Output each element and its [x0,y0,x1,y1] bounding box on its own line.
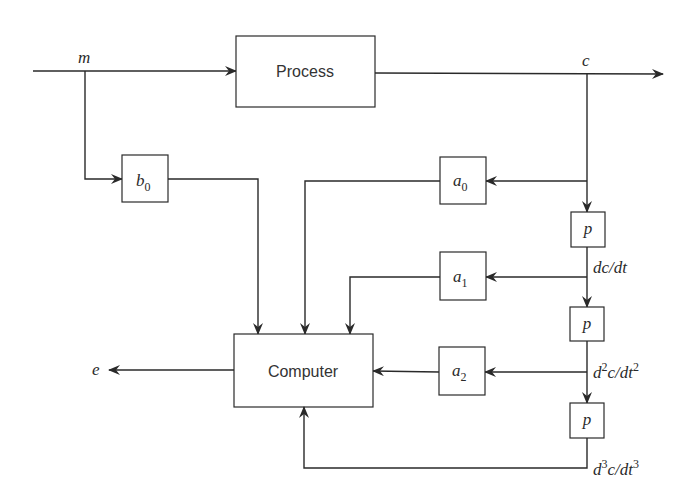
a1-block: a1 [440,252,486,300]
p2-block: p [570,307,604,341]
output-c-line [375,73,663,74]
svg-text:p: p [583,219,593,238]
signal-e-label: e [92,360,100,379]
m-to-b0-line [85,71,122,179]
b0-block: b0 [122,155,168,202]
computer-label: Computer [268,363,339,380]
process-block: Process [236,36,375,107]
b0-to-computer-line [168,179,258,334]
process-label: Process [276,63,334,80]
a2-to-computer-line [373,371,439,372]
block-diagram: m Process c b0 a0 p dc/dt a1 [0,0,691,500]
computer-block: Computer [234,334,373,407]
d3c-dt3-label: d3c/dt3 [593,457,639,479]
p3-block: p [570,403,604,438]
a2-block: a2 [439,347,485,395]
d3-to-computer-line [304,407,587,468]
a0-to-computer-line [305,181,440,334]
p1-block: p [571,212,605,247]
signal-c-label: c [582,51,590,70]
a0-block: a0 [440,157,486,204]
d2c-dt2-label: d2c/dt2 [593,360,639,382]
svg-text:p: p [582,314,592,333]
a1-to-computer-line [350,277,440,334]
svg-text:p: p [582,410,592,429]
signal-m-label: m [78,48,90,67]
dc-dt-label: dc/dt [593,258,628,277]
